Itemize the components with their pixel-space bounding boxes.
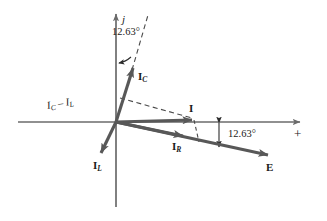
ic-minus-il-projection-dashed-line — [120, 98, 192, 118]
ic-extension-dashed-line — [132, 15, 148, 70]
vector-label-il: IL — [93, 160, 102, 171]
vector-label-e: E — [266, 162, 273, 173]
imaginary-axis-label: j — [122, 14, 125, 25]
vector-label-il-sub: L — [97, 164, 102, 173]
positive-real-axis-label: + — [294, 127, 301, 140]
angle-label-right: 12.63° — [228, 129, 256, 140]
angle-label-top: 12.63° — [112, 27, 140, 38]
axis-group — [18, 14, 300, 207]
vector-label-ic: IC — [138, 71, 147, 82]
annotation-ic-minus-il-c: C — [50, 103, 57, 113]
vector-label-ir: IR — [172, 141, 181, 152]
vector-group — [101, 68, 268, 155]
vector-ic — [116, 68, 133, 122]
vector-il — [101, 122, 116, 153]
angle-arc-top — [119, 57, 131, 63]
vector-label-ic-sub: C — [142, 75, 147, 84]
phasor-diagram-figure: j + 12.63° 12.63° IC IL IR I E IC – IL — [0, 0, 327, 221]
vector-i — [116, 120, 192, 122]
annotation-ic-minus-il-l: L — [69, 99, 75, 109]
vector-label-ir-sub: R — [176, 145, 181, 154]
vector-label-i: I — [189, 103, 193, 114]
